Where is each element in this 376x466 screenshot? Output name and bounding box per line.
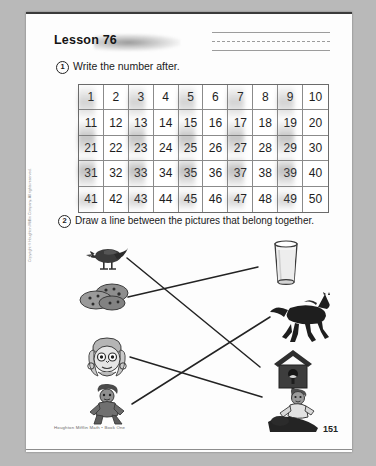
grid-cell-5[interactable]: 5 — [179, 85, 204, 110]
exercise-1-text: Write the number after. — [73, 60, 180, 72]
exercise-1-number: 1 — [56, 61, 69, 74]
grid-cell-16[interactable]: 16 — [203, 110, 228, 135]
side-copyright: Copyright © Houghton Mifflin Company. Al… — [28, 168, 32, 262]
grid-cell-34[interactable]: 34 — [154, 161, 179, 186]
grid-cell-4[interactable]: 4 — [154, 85, 179, 110]
grid-cell-44[interactable]: 44 — [154, 187, 179, 212]
grid-cell-31[interactable]: 31 — [79, 161, 104, 186]
grid-cell-27[interactable]: 27 — [228, 136, 253, 161]
line-cookies-to-milk — [128, 267, 258, 297]
line-bird-to-birdhouse — [127, 258, 260, 367]
grid-cell-7[interactable]: 7 — [228, 85, 253, 110]
grid-cell-24[interactable]: 24 — [154, 136, 179, 161]
grid-cell-14[interactable]: 14 — [154, 110, 179, 135]
grid-cell-10[interactable]: 10 — [303, 85, 328, 110]
writing-line-bottom — [212, 50, 330, 51]
grid-cell-38[interactable]: 38 — [253, 161, 278, 186]
grid-cell-13[interactable]: 13 — [129, 110, 154, 135]
grid-cell-47[interactable]: 47 — [228, 187, 253, 212]
grid-cell-36[interactable]: 36 — [203, 161, 228, 186]
grid-cell-26[interactable]: 26 — [203, 136, 228, 161]
grid-cell-37[interactable]: 37 — [228, 161, 253, 186]
grid-cell-48[interactable]: 48 — [253, 187, 278, 212]
picture-glass-of-milk — [266, 238, 306, 286]
grid-cell-40[interactable]: 40 — [303, 161, 328, 186]
grid-cell-28[interactable]: 28 — [253, 136, 278, 161]
grid-cell-35[interactable]: 35 — [179, 161, 204, 186]
grid-cell-21[interactable]: 21 — [79, 136, 104, 161]
grid-cell-29[interactable]: 29 — [278, 136, 303, 161]
grid-cell-23[interactable]: 23 — [129, 136, 154, 161]
lesson-banner: Lesson 76 — [54, 32, 184, 52]
grid-cell-30[interactable]: 30 — [303, 136, 328, 161]
line-child-to-horse — [132, 317, 270, 404]
grid-cell-17[interactable]: 17 — [228, 110, 253, 135]
grid-cell-6[interactable]: 6 — [203, 85, 228, 110]
exercise-1-instruction: 1Write the number after. — [56, 60, 180, 74]
grid-cell-19[interactable]: 19 — [278, 110, 303, 135]
grid-cell-9[interactable]: 9 — [278, 85, 303, 110]
grid-cell-18[interactable]: 18 — [253, 110, 278, 135]
picture-horse — [268, 292, 336, 344]
page-top-rule — [26, 12, 352, 14]
picture-cookies — [78, 280, 134, 312]
matching-area — [26, 230, 352, 410]
grid-cell-50[interactable]: 50 — [303, 187, 328, 212]
grid-cell-3[interactable]: 3 — [129, 85, 154, 110]
worksheet-page: Lesson 76 1Write the number after. 12345… — [26, 12, 352, 452]
exercise-2-text: Draw a line between the pictures that be… — [75, 215, 314, 226]
page-bottom-rule — [26, 449, 352, 450]
grid-cell-39[interactable]: 39 — [278, 161, 303, 186]
exercise-2-instruction: 2Draw a line between the pictures that b… — [58, 215, 314, 228]
picture-girl-riding-horse — [266, 388, 324, 432]
grid-cell-25[interactable]: 25 — [179, 136, 204, 161]
name-writing-lines — [212, 30, 330, 52]
picture-seated-child — [82, 382, 134, 426]
grid-cell-41[interactable]: 41 — [79, 187, 104, 212]
grid-cell-49[interactable]: 49 — [278, 187, 303, 212]
page-number: 151 — [323, 424, 338, 434]
grid-cell-20[interactable]: 20 — [303, 110, 328, 135]
grid-cell-45[interactable]: 45 — [179, 187, 204, 212]
number-grid: 1234567891011121314151617181920212223242… — [78, 84, 329, 213]
grid-cell-33[interactable]: 33 — [129, 161, 154, 186]
grid-cell-11[interactable]: 11 — [79, 110, 104, 135]
grid-cell-43[interactable]: 43 — [129, 187, 154, 212]
grid-cell-22[interactable]: 22 — [104, 136, 129, 161]
grid-cell-2[interactable]: 2 — [104, 85, 129, 110]
picture-bird — [84, 242, 130, 272]
grid-cell-32[interactable]: 32 — [104, 161, 129, 186]
grid-cell-12[interactable]: 12 — [104, 110, 129, 135]
exercise-2-number: 2 — [58, 215, 71, 228]
grid-cell-46[interactable]: 46 — [203, 187, 228, 212]
footer-credit: Houghton Mifflin Math • Book One — [54, 425, 125, 430]
writing-line-top — [212, 32, 330, 33]
grid-cell-42[interactable]: 42 — [104, 187, 129, 212]
picture-girl-face — [82, 336, 132, 382]
lesson-title: Lesson 76 — [54, 33, 117, 47]
writing-line-mid-dashed — [212, 41, 330, 42]
grid-cell-1[interactable]: 1 — [79, 85, 104, 110]
grid-cell-8[interactable]: 8 — [253, 85, 278, 110]
grid-cell-15[interactable]: 15 — [179, 110, 204, 135]
